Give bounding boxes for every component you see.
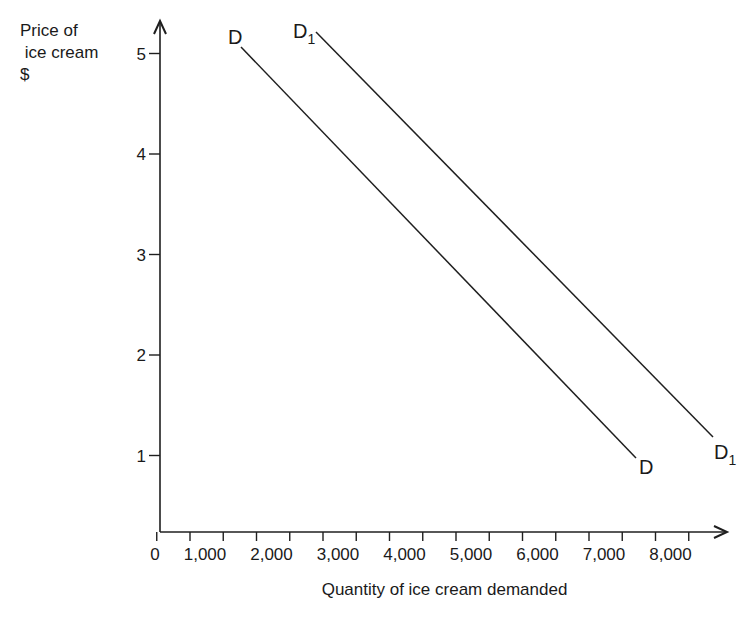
x-tick-label: 5,000 (450, 545, 493, 564)
x-tick-label: 4,000 (383, 545, 426, 564)
x-tick-label: 6,000 (516, 545, 559, 564)
demand-curve-d1 (316, 32, 713, 437)
x-tick-label: 3,000 (317, 545, 360, 564)
y-tick-label: 1 (137, 447, 146, 466)
demand-curve-d (241, 47, 636, 458)
x-tick-label: 7,000 (583, 545, 626, 564)
x-tick-label: 0 (150, 545, 159, 564)
x-axis-label: Quantity of ice cream demanded (0, 580, 755, 600)
curve-label-d1-bottom: D1 (714, 441, 736, 468)
curve-label-d-top: D (228, 26, 242, 48)
demand-chart: 5432101,0002,0003,0004,0005,0006,0007,00… (0, 0, 755, 629)
y-tick-label: 3 (137, 246, 146, 265)
y-tick-label: 4 (137, 145, 146, 164)
y-tick-label: 5 (137, 45, 146, 64)
curve-label-d1-top: D1 (293, 20, 315, 47)
x-axis-label-text: Quantity of ice cream demanded (322, 580, 568, 599)
x-tick-label: 2,000 (250, 545, 293, 564)
x-tick-label: 8,000 (649, 545, 692, 564)
y-tick-label: 2 (137, 346, 146, 365)
figure-caption-clipped (270, 618, 570, 629)
x-tick-label: 1,000 (184, 545, 227, 564)
curve-label-d-bottom: D (639, 456, 653, 478)
